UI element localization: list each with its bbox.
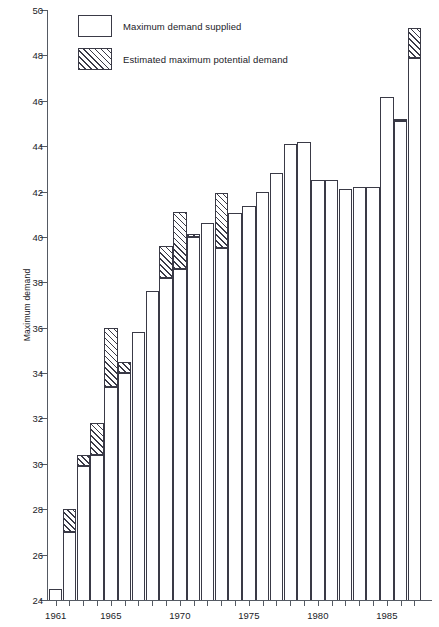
bar-1984 xyxy=(366,187,379,600)
x-tick xyxy=(387,600,388,606)
bar-potential-1986 xyxy=(394,119,407,121)
bar-1975 xyxy=(242,206,255,600)
y-tick-label: 46 xyxy=(32,95,43,106)
bar-1973 xyxy=(215,248,228,600)
bar-potential-1969 xyxy=(159,246,172,278)
bar-potential-1970 xyxy=(173,212,186,269)
x-tick-label-1980: 1980 xyxy=(307,610,328,621)
legend-label-supplied: Maximum demand supplied xyxy=(123,21,241,32)
x-tick xyxy=(152,600,153,606)
y-axis-title: Maximum demand xyxy=(22,245,32,365)
y-tick-label: 26 xyxy=(32,549,43,560)
bar-1963 xyxy=(77,466,90,600)
y-tick-label: 30 xyxy=(32,458,43,469)
x-tick xyxy=(290,600,291,606)
chart-legend: Maximum demand supplied Estimated maximu… xyxy=(78,14,338,80)
x-tick xyxy=(249,600,250,606)
bar-1974 xyxy=(228,213,241,600)
bar-potential-1973 xyxy=(215,193,228,249)
bar-1971 xyxy=(187,237,200,600)
y-tick-label: 32 xyxy=(32,413,43,424)
bar-potential-1963 xyxy=(77,455,90,466)
y-tick-label: 50 xyxy=(32,5,43,16)
bar-potential-1965 xyxy=(104,328,117,387)
bar-1968 xyxy=(146,291,159,600)
bar-1969 xyxy=(159,278,172,600)
x-tick xyxy=(97,600,98,606)
x-tick xyxy=(414,600,415,606)
bar-1980 xyxy=(311,180,324,600)
y-tick-label: 44 xyxy=(32,141,43,152)
bar-1962 xyxy=(63,532,76,600)
x-tick xyxy=(56,600,57,606)
bar-1976 xyxy=(256,192,269,600)
x-tick xyxy=(207,600,208,606)
x-tick xyxy=(83,600,84,606)
bar-1961 xyxy=(49,589,62,600)
legend-swatch-hatched-icon xyxy=(78,48,112,70)
y-tick-label: 48 xyxy=(32,50,43,61)
x-tick-label-1961: 1961 xyxy=(45,610,66,621)
x-tick xyxy=(345,600,346,606)
x-tick xyxy=(332,600,333,606)
legend-item-supplied: Maximum demand supplied xyxy=(78,14,338,38)
x-tick xyxy=(373,600,374,606)
y-tick-label: 40 xyxy=(32,231,43,242)
bar-1966 xyxy=(118,373,131,600)
x-tick xyxy=(166,600,167,606)
x-tick-label-1970: 1970 xyxy=(169,610,190,621)
x-tick xyxy=(69,600,70,606)
y-tick-label: 24 xyxy=(32,595,43,606)
x-tick xyxy=(401,600,402,606)
legend-label-potential: Estimated maximum potential demand xyxy=(123,54,288,65)
bar-1972 xyxy=(201,223,214,600)
x-tick xyxy=(194,600,195,606)
bar-potential-1962 xyxy=(63,509,76,532)
bar-potential-1964 xyxy=(90,423,103,455)
x-tick-label-1965: 1965 xyxy=(100,610,121,621)
x-tick xyxy=(235,600,236,606)
bar-1983 xyxy=(353,187,366,600)
x-tick xyxy=(180,600,181,606)
bar-potential-1987 xyxy=(408,28,421,58)
x-tick-label-1975: 1975 xyxy=(238,610,259,621)
bar-1965 xyxy=(104,387,117,600)
legend-item-potential: Estimated maximum potential demand xyxy=(78,47,338,71)
y-tick-label: 36 xyxy=(32,322,43,333)
bar-1977 xyxy=(270,173,283,600)
bar-potential-1966 xyxy=(118,362,131,373)
x-tick-label-1985: 1985 xyxy=(376,610,397,621)
x-tick xyxy=(359,600,360,606)
bar-potential-1971 xyxy=(187,234,200,237)
y-tick-label: 34 xyxy=(32,368,43,379)
x-tick xyxy=(221,600,222,606)
x-tick xyxy=(263,600,264,606)
y-tick-label: 28 xyxy=(32,504,43,515)
plot-area: 2426283032343638404244464850 19611965197… xyxy=(47,10,432,600)
bar-1970 xyxy=(173,269,186,600)
y-tick-label: 42 xyxy=(32,186,43,197)
x-axis-line xyxy=(47,600,432,601)
x-tick xyxy=(318,600,319,606)
bar-1979 xyxy=(297,142,310,600)
bar-1986 xyxy=(394,121,407,600)
bar-1967 xyxy=(132,332,145,600)
bar-1981 xyxy=(325,180,338,600)
bar-1982 xyxy=(339,189,352,600)
x-tick xyxy=(111,600,112,606)
bar-1987 xyxy=(408,58,421,600)
legend-swatch-solid-icon xyxy=(78,15,112,37)
bars-layer xyxy=(47,10,432,600)
x-tick xyxy=(138,600,139,606)
x-tick xyxy=(276,600,277,606)
bar-1985 xyxy=(380,97,393,600)
bar-1978 xyxy=(284,144,297,600)
maximum-demand-bar-chart: Maximum demand 2426283032343638404244464… xyxy=(0,0,439,627)
y-tick-label: 38 xyxy=(32,277,43,288)
x-tick xyxy=(304,600,305,606)
bar-1964 xyxy=(90,455,103,600)
x-tick xyxy=(125,600,126,606)
